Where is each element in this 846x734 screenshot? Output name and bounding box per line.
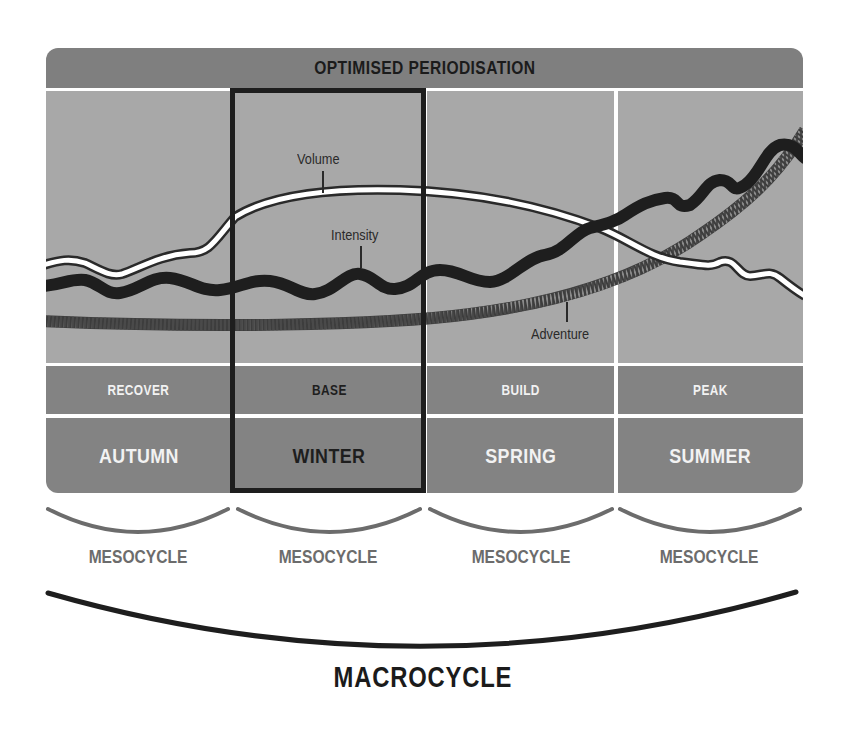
phase-label: BUILD — [501, 382, 539, 398]
mesocycle-arc — [620, 509, 800, 532]
season-cell-summer: SUMMER — [618, 418, 803, 493]
macrocycle-arc — [48, 592, 796, 646]
mesocycle-label: MESOCYCLE — [60, 546, 216, 568]
phase-cell-recover: RECOVER — [46, 366, 231, 414]
phase-label: PEAK — [693, 382, 728, 398]
mesocycle-arc — [430, 509, 612, 532]
macrocycle-label-wrap: MACROCYCLE — [0, 661, 846, 694]
mesocycle-label: MESOCYCLE — [631, 546, 787, 568]
phase-label: RECOVER — [108, 382, 170, 398]
season-cell-autumn: AUTUMN — [46, 418, 231, 493]
season-label: SUMMER — [670, 444, 752, 468]
macrocycle-label: MACROCYCLE — [334, 661, 513, 694]
phase-cell-peak: PEAK — [618, 366, 803, 414]
adventure-label: Adventure — [531, 325, 589, 342]
mesocycle-label: MESOCYCLE — [443, 546, 599, 568]
season-label: SPRING — [485, 444, 556, 468]
season-label: AUTUMN — [99, 444, 179, 468]
mesocycle-arc — [238, 509, 420, 532]
phase-cell-build: BUILD — [427, 366, 614, 414]
season-cell-spring: SPRING — [427, 418, 614, 493]
winter-highlight-box — [230, 88, 426, 493]
mesocycle-arc — [48, 509, 228, 532]
mesocycle-label: MESOCYCLE — [250, 546, 406, 568]
